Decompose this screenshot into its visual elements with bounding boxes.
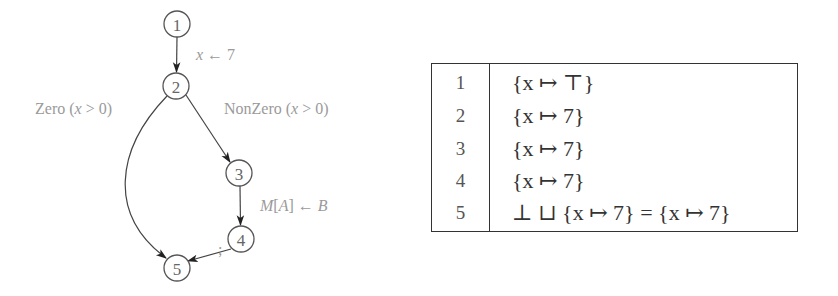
table-row: 2 {x ↦ 7} xyxy=(432,99,797,132)
svg-text:1: 1 xyxy=(173,16,182,35)
edge-label-1-2: x ← 7 xyxy=(195,46,235,63)
table-row: 3 {x ↦ 7} xyxy=(432,132,797,165)
edge-1-2 xyxy=(177,37,178,72)
table-row: 4 {x ↦ 7} xyxy=(432,164,797,197)
node-3: 3 xyxy=(226,160,252,186)
row-state-value: {x ↦ 7} xyxy=(512,164,585,197)
node-4: 4 xyxy=(228,226,254,252)
row-node-number: 2 xyxy=(432,99,489,132)
edge-4-5 xyxy=(188,249,231,261)
edge-2-5 xyxy=(125,96,167,258)
row-state-value: ⊥ ⊔ {x ↦ 7} = {x ↦ 7} xyxy=(512,196,731,229)
node-2: 2 xyxy=(163,73,189,99)
node-5: 5 xyxy=(164,255,190,281)
edge-label-2-5: Zero (x > 0) xyxy=(35,100,112,118)
control-flow-graph: x ← 7 Zero (x > 0) NonZero (x > 0) M[A] … xyxy=(0,0,420,296)
svg-text:5: 5 xyxy=(173,260,182,279)
svg-text:4: 4 xyxy=(237,231,246,250)
row-state-value: {x ↦ 7} xyxy=(512,99,585,132)
svg-text:3: 3 xyxy=(235,165,244,184)
edge-label-2-3: NonZero (x > 0) xyxy=(224,100,329,118)
edge-label-3-4: M[A] ← B xyxy=(259,197,328,214)
row-state-value: {x ↦ 7} xyxy=(512,132,585,165)
edge-3-4 xyxy=(240,186,241,225)
table-row: 5 ⊥ ⊔ {x ↦ 7} = {x ↦ 7} xyxy=(432,196,797,229)
table-row: 1 {x ↦ ⊤} xyxy=(432,66,797,99)
row-node-number: 1 xyxy=(432,66,489,99)
row-node-number: 5 xyxy=(432,196,489,229)
row-node-number: 3 xyxy=(432,132,489,165)
node-1: 1 xyxy=(164,11,190,37)
abstract-state-table: 1 {x ↦ ⊤} 2 {x ↦ 7} 3 {x ↦ 7} 4 {x ↦ 7} … xyxy=(431,63,798,232)
svg-text:2: 2 xyxy=(172,78,181,97)
row-state-value: {x ↦ ⊤} xyxy=(512,66,594,99)
row-node-number: 4 xyxy=(432,164,489,197)
edge-label-4-5: ; xyxy=(218,241,222,258)
